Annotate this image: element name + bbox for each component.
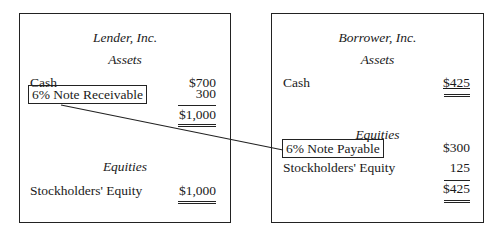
lender-equities-heading: Equities [20,159,230,175]
lender-company-name: Lender, Inc. [20,30,230,46]
borrower-assets-double-rule [444,94,470,97]
borrower-company-name: Borrower, Inc. [272,30,483,46]
borrower-equity-amount: 125 [450,160,470,176]
lender-assets-total: $1,000 [179,107,216,123]
lender-equities-double-rule [178,201,216,204]
lender-subtotal-rule [178,105,216,106]
borrower-note-payable-label: 6% Note Payable [282,139,384,158]
lender-equity-label: Stockholders' Equity [30,183,142,199]
lender-balance-sheet: Lender, Inc. Assets Cash $700 6% Note Re… [19,13,231,223]
lender-note-receivable-label: 6% Note Receivable [28,85,147,104]
borrower-equities-total: $425 [443,181,470,197]
lender-assets-double-rule [178,124,216,127]
borrower-balance-sheet: Borrower, Inc. Assets Cash $425 Equities… [271,13,484,223]
lender-assets-heading: Assets [20,52,230,68]
borrower-equities-double-rule [444,200,470,203]
lender-equity-amount: $1,000 [179,183,216,199]
borrower-assets-heading: Assets [272,52,483,68]
borrower-asset-amount: $425 [443,75,470,91]
borrower-note-payable-amount: $300 [443,140,470,156]
borrower-asset-label: Cash [283,75,310,91]
borrower-equity-label: Stockholders' Equity [283,160,395,176]
lender-note-receivable-amount: 300 [196,86,216,102]
